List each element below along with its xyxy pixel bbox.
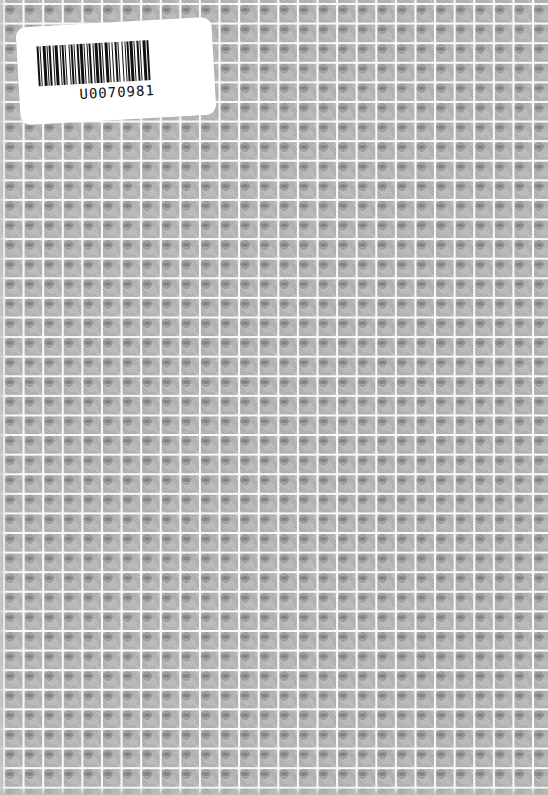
scan-edge-bottom xyxy=(0,787,548,795)
scan-edge-left xyxy=(0,0,6,795)
barcode-label: U0070981 xyxy=(15,17,216,126)
barcode-icon xyxy=(37,40,152,86)
